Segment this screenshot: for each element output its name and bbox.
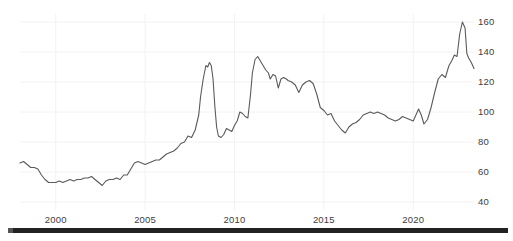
footer-rule-cap bbox=[8, 228, 13, 233]
y-tick-label: 120 bbox=[478, 76, 494, 87]
x-tick-label: 2000 bbox=[34, 214, 78, 225]
x-tick-label: 2010 bbox=[212, 214, 256, 225]
y-tick-label: 140 bbox=[478, 46, 494, 57]
y-tick-label: 100 bbox=[478, 106, 494, 117]
x-tick-label: 2015 bbox=[302, 214, 346, 225]
chart-container: 406080100120140160 20002005201020152020 bbox=[0, 0, 513, 241]
gridlines bbox=[20, 14, 474, 210]
y-tick-label: 160 bbox=[478, 16, 494, 27]
series-path-index bbox=[20, 22, 474, 186]
line-chart-plot bbox=[0, 0, 513, 241]
y-tick-label: 80 bbox=[478, 136, 489, 147]
data-series-line bbox=[20, 22, 474, 186]
y-tick-label: 60 bbox=[478, 166, 489, 177]
y-tick-label: 40 bbox=[478, 196, 489, 207]
footer-rule bbox=[8, 228, 508, 233]
x-tick-label: 2005 bbox=[123, 214, 167, 225]
x-tick-label: 2020 bbox=[391, 214, 435, 225]
